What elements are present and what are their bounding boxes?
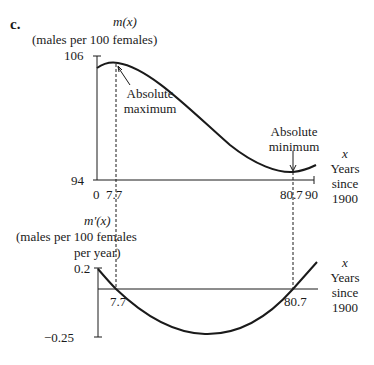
top-x-tick-label-7-7: 7.7 (106, 187, 122, 202)
top-x-tick-label-80-7: 80.7 (280, 187, 303, 202)
top-x-unit-1: Years (325, 161, 365, 176)
part-label: c. (10, 17, 20, 32)
max-annotation-line2: maximum (120, 101, 180, 116)
bottom-x-unit-2: since (325, 285, 365, 300)
m-curve (97, 63, 316, 172)
bottom-x-tick-label-7-7: 7.7 (110, 294, 126, 309)
bottom-y-tick-label-0-2: 0.2 (74, 261, 90, 276)
bottom-x-unit-3: 1900 (325, 300, 365, 315)
top-y-title: m(x) (113, 14, 137, 29)
max-arrow (118, 67, 130, 85)
min-annotation-line2: minimum (264, 139, 324, 154)
top-x-unit-2: since (325, 176, 365, 191)
top-x-unit-3: 1900 (325, 191, 365, 206)
max-annotation-line1: Absolute (120, 86, 180, 101)
top-y-tick-label-106: 106 (64, 48, 84, 63)
bottom-x-unit-1: Years (325, 270, 365, 285)
top-x-var: x (325, 146, 365, 161)
bottom-y-unit-1: (males per 100 females (16, 229, 137, 244)
min-annotation-line1: Absolute (264, 124, 324, 139)
bottom-x-tick-label-80-7: 80.7 (284, 294, 307, 309)
top-y-tick-label-94: 94 (71, 173, 84, 188)
charts-graphics (0, 0, 374, 365)
bottom-y-tick-label-neg: −0.25 (44, 330, 74, 345)
bottom-y-title: m'(x) (84, 213, 111, 228)
bottom-x-var: x (325, 255, 365, 270)
top-y-unit: (males per 100 females) (32, 32, 157, 47)
top-x-tick-label-90: 90 (305, 187, 318, 202)
top-x-tick-label-0: 0 (93, 187, 100, 202)
bottom-y-unit-2: per year) (74, 245, 121, 260)
max-arrowhead (118, 66, 122, 72)
